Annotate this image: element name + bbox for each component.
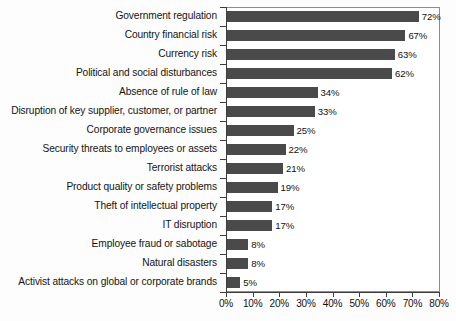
y-tick [220,83,226,84]
bar-value-label: 72% [422,11,441,22]
y-tick [220,45,226,46]
x-tick [226,292,227,297]
bar [227,11,419,22]
category-label: Activist attacks on global or corporate … [0,273,222,292]
x-tick-label: 40% [323,298,342,309]
category-label: Security threats to employees or assets [0,140,222,159]
category-label: Corporate governance issues [0,121,222,140]
y-tick [220,197,226,198]
bar-value-label: 67% [408,30,427,41]
x-tick-label: 70% [403,298,422,309]
bar [227,144,286,155]
bar-row: 34% [227,83,440,102]
x-tick [279,292,280,297]
x-tick [412,292,413,297]
bar-value-label: 21% [286,163,305,174]
bar-value-label: 19% [281,182,300,193]
bar-row: 17% [227,197,440,216]
category-label: Absence of rule of law [0,83,222,102]
bar [227,30,405,41]
category-label: Natural disasters [0,254,222,273]
bar-value-label: 8% [251,239,265,250]
y-tick [220,102,226,103]
bar-row: 63% [227,45,440,64]
bar [227,239,248,250]
bar-row: 22% [227,140,440,159]
bar-row: 19% [227,178,440,197]
x-tick-label: 30% [296,298,315,309]
bar [227,68,392,79]
bar [227,163,283,174]
bar [227,258,248,269]
y-tick [220,121,226,122]
category-label: Terrorist attacks [0,159,222,178]
y-tick [220,26,226,27]
bar [227,220,272,231]
bar-value-label: 33% [318,106,337,117]
x-tick [359,292,360,297]
bar-value-label: 62% [395,68,414,79]
bar-row: 72% [227,7,440,26]
y-tick [220,178,226,179]
category-label: Theft of intellectual property [0,197,222,216]
x-tick-label: 10% [243,298,262,309]
bar-value-label: 22% [289,144,308,155]
y-tick [220,254,226,255]
category-label: Government regulation [0,7,222,26]
bar-row: 8% [227,235,440,254]
bar-row: 5% [227,273,440,292]
x-tick-label: 50% [349,298,368,309]
y-tick [220,273,226,274]
x-tick-label: 80% [429,298,448,309]
bar-row: 17% [227,216,440,235]
x-tick-label: 0% [219,298,233,309]
category-label: Employee fraud or sabotage [0,235,222,254]
category-label: Disruption of key supplier, customer, or… [0,102,222,121]
y-tick [220,140,226,141]
bar [227,201,272,212]
y-tick [220,159,226,160]
x-tick [386,292,387,297]
bar [227,106,315,117]
bars-area: 72%67%63%62%34%33%25%22%21%19%17%17%8%8%… [227,7,440,292]
category-label: Political and social disturbances [0,64,222,83]
bar [227,49,395,60]
bar-row: 33% [227,102,440,121]
bar-value-label: 5% [243,277,257,288]
bar-row: 8% [227,254,440,273]
x-tick [333,292,334,297]
x-tick [253,292,254,297]
bar-value-label: 8% [251,258,265,269]
x-axis-tick-labels: 0%10%20%30%40%50%60%70%80% [226,298,448,314]
y-tick [220,216,226,217]
x-tick [306,292,307,297]
category-label: IT disruption [0,216,222,235]
category-label: Country financial risk [0,26,222,45]
bar-value-label: 17% [275,220,294,231]
bar-row: 62% [227,64,440,83]
y-tick [220,235,226,236]
bar-value-label: 63% [398,49,417,60]
y-tick [220,7,226,8]
category-label: Currency risk [0,45,222,64]
x-tick [439,292,440,297]
bar-row: 67% [227,26,440,45]
bar-value-label: 17% [275,201,294,212]
y-axis-ticks [220,7,226,292]
bar-value-label: 34% [321,87,340,98]
bar [227,87,318,98]
bar-chart: Government regulationCountry financial r… [0,0,456,321]
category-axis-labels: Government regulationCountry financial r… [0,7,222,292]
category-label: Product quality or safety problems [0,178,222,197]
bar [227,182,278,193]
bar [227,125,294,136]
x-axis-ticks [226,292,440,297]
x-tick-label: 60% [376,298,395,309]
bar-row: 21% [227,159,440,178]
bar [227,277,240,288]
x-tick-label: 20% [270,298,289,309]
bar-value-label: 25% [297,125,316,136]
bar-row: 25% [227,121,440,140]
y-tick [220,64,226,65]
